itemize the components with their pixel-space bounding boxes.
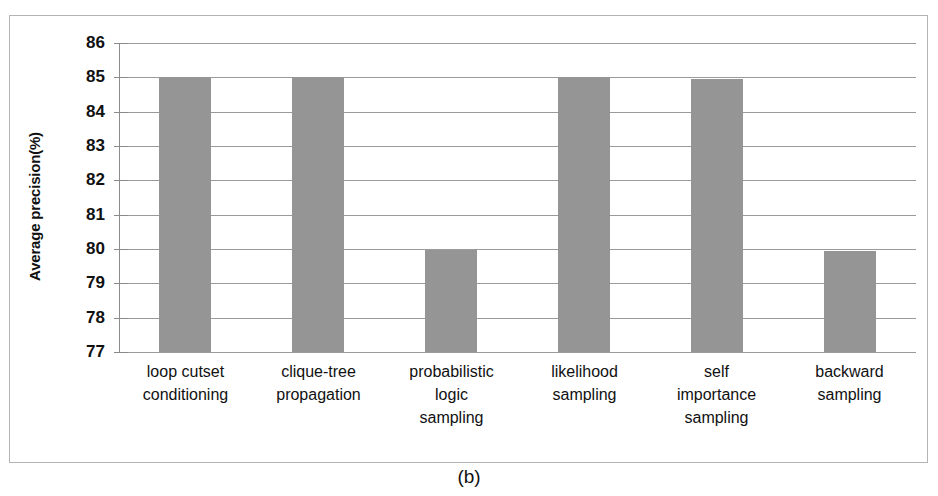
gridline-77 [128,352,916,353]
x-axis-label-line: sampling [385,406,518,429]
x-axis-label-line: propagation [252,383,385,406]
bar [425,250,477,352]
y-tick-label-80: 80 [57,240,105,257]
x-axis-label: backwardsampling [783,360,916,406]
x-axis-label-line: probabilistic [385,360,518,383]
y-axis-title: Average precision(%) [26,87,43,327]
tick-mark-77 [114,352,128,353]
y-tick-label-83: 83 [57,137,105,154]
y-tick-label-79: 79 [57,274,105,291]
x-axis-category-labels: loop cutsetconditioningclique-treepropag… [119,360,916,460]
bars-layer [119,43,916,352]
x-axis-label: loop cutsetconditioning [119,360,252,406]
figure-caption: (b) [0,466,938,488]
x-axis-label-line: loop cutset [119,360,252,383]
x-axis-label: probabilisticlogicsampling [385,360,518,429]
x-axis-label: selfimportancesampling [650,360,783,429]
figure-frame: Average precision(%) 8685848382818079787… [9,15,928,463]
y-tick-label-86: 86 [57,34,105,51]
bar [159,77,211,352]
x-axis-label-line: logic [385,383,518,406]
bar [691,79,743,352]
bar [824,251,876,352]
x-axis-label: likelihoodsampling [518,360,651,406]
y-tick-label-81: 81 [57,206,105,223]
plot-area: 86858483828180797877 [119,43,916,352]
y-tick-label-85: 85 [57,68,105,85]
x-axis-label-line: backward [783,360,916,383]
y-tick-label-82: 82 [57,171,105,188]
y-tick-label-78: 78 [57,309,105,326]
x-axis-label: clique-treepropagation [252,360,385,406]
x-axis-label-line: sampling [783,383,916,406]
x-axis-label-line: clique-tree [252,360,385,383]
x-axis-label-line: self [650,360,783,383]
x-axis-label-line: likelihood [518,360,651,383]
bar [558,77,610,352]
bar [292,77,344,352]
x-axis-label-line: importance [650,383,783,406]
x-axis-label-line: sampling [650,406,783,429]
x-axis-label-line: sampling [518,383,651,406]
y-tick-label-77: 77 [57,343,105,360]
y-tick-label-84: 84 [57,103,105,120]
x-axis-label-line: conditioning [119,383,252,406]
